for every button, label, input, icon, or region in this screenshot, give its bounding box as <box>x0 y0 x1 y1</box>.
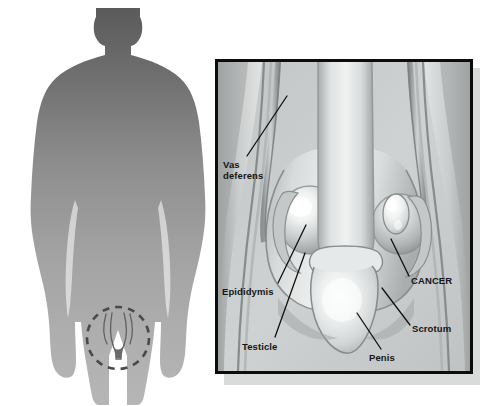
label-vas-deferens: Vasdeferens <box>223 159 263 181</box>
label-scrotum: Scrotum <box>412 323 451 334</box>
label-penis: Penis <box>369 352 395 363</box>
penis-shaft <box>318 62 374 262</box>
cancer-tumor-highlight <box>387 198 397 212</box>
label-vas-deferens-line1: Vas <box>223 159 240 170</box>
body-silhouette-graphic <box>0 0 215 406</box>
label-epididymis: Epididymis <box>222 286 274 297</box>
label-testicle: Testicle <box>242 341 277 352</box>
label-cancer: CANCER <box>411 275 452 286</box>
label-vas-deferens-line2: deferens <box>223 170 263 181</box>
silhouette-body-shape <box>0 0 215 406</box>
penis-glans-highlight <box>322 278 362 322</box>
figure-root: Vasdeferens Epididymis Testicle Penis Sc… <box>0 0 485 406</box>
body-silhouette-panel <box>0 0 215 406</box>
cancer-tumor-highlight-2 <box>394 220 402 230</box>
